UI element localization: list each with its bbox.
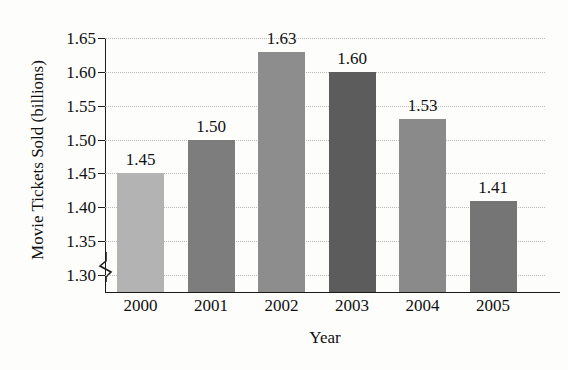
y-axis-tick-mark [98, 140, 105, 141]
x-axis-line [105, 292, 560, 293]
y-axis-tick-mark [98, 106, 105, 107]
x-axis-title: Year [105, 328, 545, 348]
bar-value-label: 1.45 [126, 151, 156, 168]
bar-rect[interactable] [329, 72, 376, 292]
x-axis-tick-label: 2005 [453, 296, 533, 316]
bar-rect[interactable] [188, 140, 235, 292]
bar[interactable]: 1.53 [399, 38, 446, 292]
y-axis-tick-mark [98, 241, 105, 242]
bar-rect[interactable] [258, 52, 305, 292]
y-axis-tick-label: 1.50 [66, 132, 96, 149]
bar-value-label: 1.63 [267, 30, 297, 47]
x-axis-tick-label: 2003 [312, 296, 392, 316]
chart-title: United States Movie Attendance [0, 0, 568, 4]
bar[interactable]: 1.60 [329, 38, 376, 292]
bar-value-label: 1.41 [478, 179, 508, 196]
bar-value-label: 1.53 [408, 97, 438, 114]
x-axis-tick-label: 2004 [383, 296, 463, 316]
chart-screenshot: United States Movie Attendance Movie Tic… [0, 0, 568, 370]
y-axis-tick-label: 1.60 [66, 64, 96, 81]
axis-break-icon [96, 252, 116, 282]
bar-rect[interactable] [117, 173, 164, 292]
bar-value-label: 1.50 [196, 118, 226, 135]
bar-rect[interactable] [470, 201, 517, 292]
y-axis-tick-label: 1.55 [66, 98, 96, 115]
bar[interactable]: 1.63 [258, 38, 305, 292]
y-axis-tick-mark [98, 72, 105, 73]
bar-value-label: 1.60 [337, 50, 367, 67]
y-axis-title: Movie Tickets Sold (billions) [28, 15, 48, 305]
y-axis-tick-label: 1.35 [66, 233, 96, 250]
x-axis-tick-label: 2000 [101, 296, 181, 316]
bar[interactable]: 1.45 [117, 38, 164, 292]
x-axis-tick-label: 2001 [171, 296, 251, 316]
y-axis-tick-mark [98, 173, 105, 174]
y-axis-tick-mark [98, 275, 105, 276]
y-axis-tick-label: 1.40 [66, 199, 96, 216]
plot-area: 1.301.351.401.451.501.551.601.65 1.451.5… [105, 38, 545, 292]
y-axis-tick-mark [98, 38, 105, 39]
y-axis-tick-label: 1.45 [66, 165, 96, 182]
y-axis-tick-mark [98, 207, 105, 208]
bar[interactable]: 1.50 [188, 38, 235, 292]
x-axis-tick-label: 2002 [242, 296, 322, 316]
bar[interactable]: 1.41 [470, 38, 517, 292]
y-axis-tick-label: 1.65 [66, 30, 96, 47]
bar-rect[interactable] [399, 119, 446, 292]
y-axis-tick-label: 1.30 [66, 267, 96, 284]
